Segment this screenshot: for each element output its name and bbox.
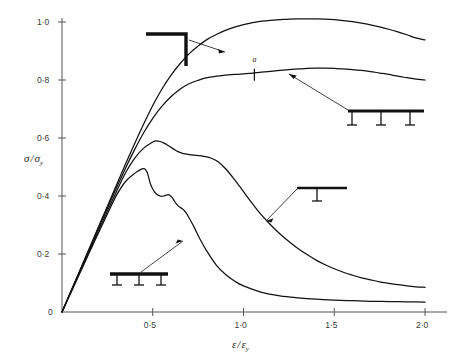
chart-figure: σ/σy ε/εy 00·20·40·60·81·00·51·01·52·0 a [0,0,453,364]
beam-three-supports-short-symbol [110,239,183,285]
curve-angle-corner-section [62,19,425,312]
x-tick-label: 1·5 [325,320,337,330]
y-axis-subscript: y [40,159,43,167]
x-axis-title: ε/εy [232,338,249,353]
beam-three-supports-leader [289,74,348,110]
annotation-label-point-a: a [252,55,256,64]
y-tick-label: 0·2 [37,249,49,259]
y-tick-label: 0·8 [37,75,49,85]
y-tick-label: 0·4 [37,191,49,201]
x-tick-label: 0·5 [144,320,156,330]
angle-corner-shape [146,34,186,66]
beam-one-support-symbol [266,188,347,223]
chart-svg [0,0,453,364]
angle-corner-symbol [146,34,225,66]
beam-short-leader [141,241,183,272]
y-axis-title: σ/σy [24,152,43,167]
y-tick-label: 1·0 [37,17,49,27]
y-tick-label: 0·6 [37,133,49,143]
x-tick-label: 1·0 [235,320,247,330]
beam-one-support-leader [266,189,297,221]
beam-three-supports-symbol [289,74,424,125]
x-tick-label: 2·0 [416,320,428,330]
chart-curves [62,19,425,312]
x-axis-subscript: y [246,345,249,353]
y-tick-label: 0 [48,307,53,317]
